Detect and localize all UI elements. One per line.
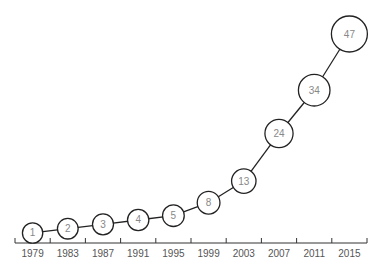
data-label: 24 bbox=[273, 128, 285, 139]
data-label: 3 bbox=[100, 219, 106, 230]
data-point: 13 bbox=[232, 169, 256, 193]
data-label: 5 bbox=[171, 210, 177, 221]
x-tick-label: 2015 bbox=[338, 248, 361, 259]
data-point: 3 bbox=[92, 214, 113, 235]
data-point: 5 bbox=[163, 205, 185, 227]
x-tick-label: 1995 bbox=[162, 248, 185, 259]
data-point: 2 bbox=[57, 218, 78, 239]
chart: 1979198319871991199519992003200720112015… bbox=[0, 0, 382, 272]
x-tick-label: 2003 bbox=[233, 248, 256, 259]
data-label: 13 bbox=[238, 176, 250, 187]
connector-lines bbox=[33, 34, 350, 233]
data-point: 1 bbox=[22, 223, 42, 243]
x-tick-label: 1979 bbox=[21, 248, 44, 259]
data-point: 8 bbox=[197, 191, 220, 214]
data-label: 2 bbox=[65, 223, 71, 234]
data-label: 4 bbox=[135, 214, 141, 225]
data-points: 12345813243447 bbox=[22, 16, 367, 243]
data-label: 1 bbox=[30, 227, 36, 238]
x-tick-label: 1987 bbox=[92, 248, 115, 259]
data-point: 24 bbox=[265, 119, 293, 147]
x-tick-label: 2007 bbox=[268, 248, 291, 259]
data-point: 34 bbox=[298, 74, 330, 106]
data-point: 4 bbox=[128, 209, 149, 230]
x-tick-label: 1983 bbox=[57, 248, 80, 259]
x-axis-tick-labels: 1979198319871991199519992003200720112015 bbox=[21, 248, 360, 259]
data-label: 47 bbox=[344, 29, 356, 40]
data-label: 34 bbox=[309, 85, 321, 96]
data-label: 8 bbox=[206, 197, 212, 208]
x-tick-label: 1999 bbox=[197, 248, 220, 259]
x-tick-label: 1991 bbox=[127, 248, 150, 259]
x-tick-label: 2011 bbox=[303, 248, 325, 259]
data-point: 47 bbox=[331, 16, 367, 52]
